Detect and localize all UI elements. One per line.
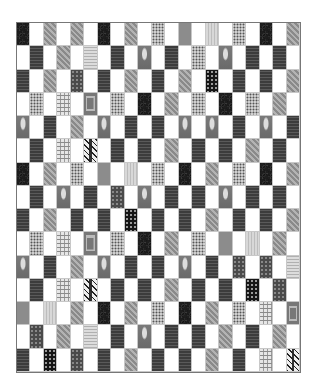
quilt-square-white-square [192, 302, 205, 325]
quilt-square-white-square [287, 46, 300, 69]
quilt-square-white-square [206, 93, 219, 116]
quilt-square-medium-damask-fabric [206, 163, 219, 186]
quilt-square-dark-tapestry-fabric [111, 139, 124, 162]
quilt-square-white-square [71, 186, 84, 209]
quilt-square-white-square [84, 209, 97, 232]
quilt-square-speckled-fabric [192, 232, 205, 255]
quilt-square-white-square [273, 302, 286, 325]
quilt-square-white-square [192, 256, 205, 279]
quilt-square-vase-motif-fabric [57, 186, 70, 209]
quilt-square-medium-damask-fabric [246, 139, 259, 162]
quilt-square-speckled-fabric [246, 93, 259, 116]
quilt-square-medium-damask-fabric [165, 139, 178, 162]
quilt-square-white-square [273, 209, 286, 232]
quilt-square-white-square [219, 163, 232, 186]
quilt-square-dark-tapestry-fabric [125, 256, 138, 279]
quilt-square-dark-tapestry-fabric [30, 139, 43, 162]
quilt-square-white-square [152, 325, 165, 348]
quilt-square-dark-tapestry-fabric [246, 325, 259, 348]
quilt-square-speckled-fabric [233, 23, 246, 46]
quilt-square-medium-damask-fabric [287, 163, 300, 186]
quilt-square-white-square [125, 232, 138, 255]
quilt-square-dark-floral-fabric [273, 279, 286, 302]
quilt-square-white-square [57, 302, 70, 325]
quilt-square-dark-circles-fabric [260, 23, 273, 46]
quilt-square-dark-circles-fabric [179, 163, 192, 186]
quilt-square-white-square [192, 209, 205, 232]
quilt-square-dark-circles-fabric [260, 163, 273, 186]
quilt-square-white-square [206, 325, 219, 348]
quilt-square-white-square [246, 209, 259, 232]
quilt-square-white-square [260, 46, 273, 69]
quilt-square-black-floral-fabric [206, 70, 219, 93]
quilt-square-dark-tapestry-fabric [111, 46, 124, 69]
quilt-square-dark-tapestry-fabric [273, 139, 286, 162]
quilt-square-white-square [98, 186, 111, 209]
quilt-square-plaid-fabric [57, 279, 70, 302]
quilt-square-dark-tapestry-fabric [111, 279, 124, 302]
quilt-square-white-square [219, 209, 232, 232]
quilt-square-speckled-fabric [111, 93, 124, 116]
quilt-square-white-square [30, 209, 43, 232]
quilt-square-white-square [192, 116, 205, 139]
quilt-square-flat-gray-fabric [179, 23, 192, 46]
quilt-square-dark-circles-fabric [17, 23, 30, 46]
quilt-square-white-square [44, 46, 57, 69]
quilt-square-white-square [287, 93, 300, 116]
quilt-square-vase-motif-fabric [179, 256, 192, 279]
quilt-square-white-square [179, 232, 192, 255]
quilt-square-white-square [30, 163, 43, 186]
quilt-square-dark-tapestry-fabric [233, 349, 246, 372]
quilt-square-white-square [152, 93, 165, 116]
quilt-square-medium-damask-fabric [179, 70, 192, 93]
quilt-square-white-square [233, 232, 246, 255]
quilt-square-medium-damask-fabric [206, 209, 219, 232]
quilt-square-square-frame-fabric [84, 232, 97, 255]
quilt-square-white-square [287, 279, 300, 302]
quilt-square-white-square [287, 139, 300, 162]
quilt-square-white-square [71, 232, 84, 255]
quilt-square-dark-floral-fabric [30, 325, 43, 348]
quilt-square-white-square [17, 93, 30, 116]
quilt-square-speckled-fabric [152, 302, 165, 325]
quilt-square-woven-stripe-fabric [84, 325, 97, 348]
quilt-square-white-square [206, 139, 219, 162]
quilt-square-dark-tapestry-fabric [192, 325, 205, 348]
quilt-square-white-square [219, 302, 232, 325]
quilt-square-white-square [17, 325, 30, 348]
quilt-square-white-square [125, 325, 138, 348]
quilt-square-white-square [273, 116, 286, 139]
quilt-square-medium-damask-fabric [71, 23, 84, 46]
quilt-square-white-square [179, 325, 192, 348]
quilt-square-white-square [125, 186, 138, 209]
quilt-square-medium-damask-fabric [71, 302, 84, 325]
quilt-square-vase-motif-fabric [17, 256, 30, 279]
quilt-square-dark-tapestry-fabric [179, 209, 192, 232]
quilt-square-white-square [206, 186, 219, 209]
quilt-square-white-square [260, 186, 273, 209]
quilt-square-white-square [138, 116, 151, 139]
quilt-square-white-square [246, 349, 259, 372]
quilt-square-white-square [165, 349, 178, 372]
quilt-square-white-square [179, 93, 192, 116]
quilt-square-dark-floral-fabric [71, 70, 84, 93]
quilt-square-white-square [57, 23, 70, 46]
quilt-square-white-square [233, 93, 246, 116]
quilt-square-white-square [260, 232, 273, 255]
quilt-square-white-square [17, 186, 30, 209]
quilt-square-dark-tapestry-fabric [233, 209, 246, 232]
quilt-square-dark-tapestry-fabric [260, 70, 273, 93]
quilt-square-dark-tapestry-fabric [152, 256, 165, 279]
quilt-square-white-square [152, 139, 165, 162]
quilt-square-white-square [179, 139, 192, 162]
quilt-square-white-square [84, 349, 97, 372]
quilt-square-white-square [98, 93, 111, 116]
quilt-square-white-square [17, 232, 30, 255]
quilt-square-dark-tapestry-fabric [17, 209, 30, 232]
quilt-square-white-square [219, 349, 232, 372]
quilt-square-white-square [44, 232, 57, 255]
quilt-square-white-square [179, 46, 192, 69]
quilt-square-dark-tapestry-fabric [30, 186, 43, 209]
quilt-square-white-square [111, 209, 124, 232]
quilt-square-dark-circles-fabric [138, 232, 151, 255]
